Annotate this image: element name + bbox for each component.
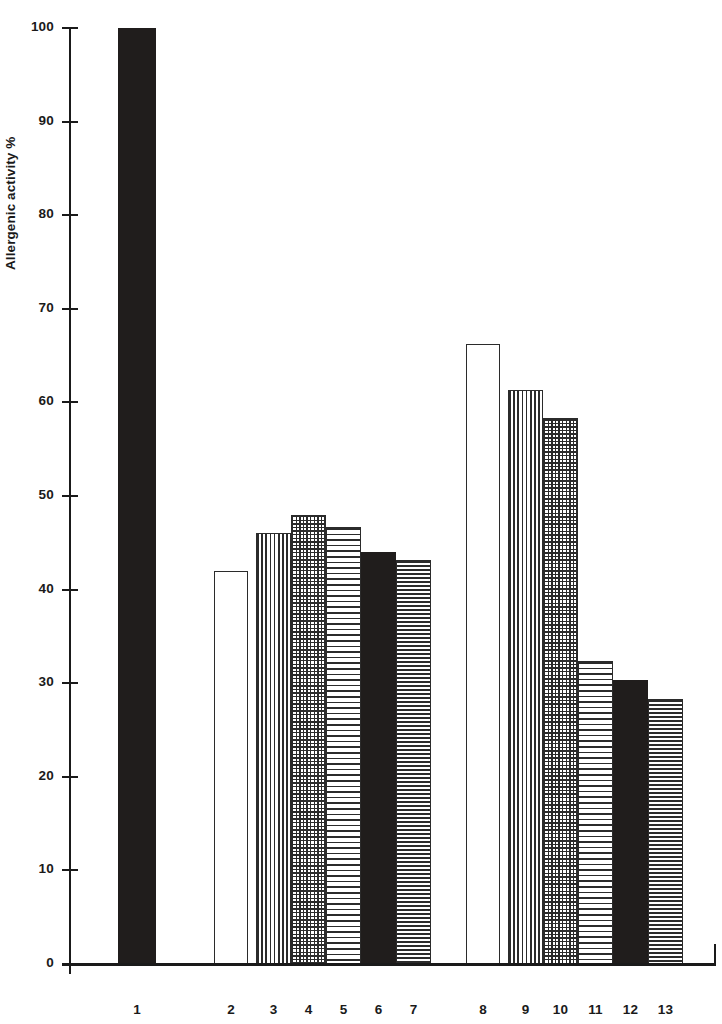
- y-axis-tick: [62, 401, 78, 403]
- bar-10: [543, 418, 578, 964]
- y-axis-tick: [62, 776, 78, 778]
- y-axis-tick-label: 90: [10, 113, 54, 128]
- x-axis-tick-label-3: 3: [254, 1002, 294, 1017]
- x-axis-tick-label-12: 12: [611, 1002, 651, 1017]
- x-axis-tick-label-9: 9: [506, 1002, 546, 1017]
- y-axis-tick-label: 0: [10, 955, 54, 970]
- x-axis-tick-label-4: 4: [289, 1002, 329, 1017]
- bar-8: [466, 344, 500, 964]
- y-axis-tick-label: 100: [10, 19, 54, 34]
- x-axis-tick-label-1: 1: [117, 1002, 157, 1017]
- bar-1: [118, 28, 156, 964]
- bar-9: [508, 390, 543, 964]
- bar-13: [648, 699, 683, 964]
- y-axis-tick-label: 30: [10, 674, 54, 689]
- y-axis-tick: [62, 121, 78, 123]
- bar-5: [326, 527, 361, 964]
- bar-2: [214, 571, 248, 964]
- y-axis-tick-label: 60: [10, 393, 54, 408]
- bar-4: [291, 515, 326, 964]
- y-axis-tick: [62, 27, 78, 29]
- bar-7: [396, 560, 431, 964]
- y-axis-tick: [62, 214, 78, 216]
- x-axis-tick-label-2: 2: [211, 1002, 251, 1017]
- bar-11: [578, 661, 613, 964]
- y-axis-line: [69, 28, 71, 966]
- x-axis-tick-label-10: 10: [541, 1002, 581, 1017]
- x-axis-end-tick: [714, 944, 716, 965]
- y-axis-tick-label: 20: [10, 768, 54, 783]
- x-axis-origin-tick: [69, 952, 71, 974]
- x-axis-tick-label-8: 8: [463, 1002, 503, 1017]
- x-axis-tick-label-7: 7: [394, 1002, 434, 1017]
- bar-chart: Allergenic activity % 010203040506070809…: [0, 0, 722, 1024]
- x-axis-tick-label-11: 11: [576, 1002, 616, 1017]
- y-axis-tick: [62, 589, 78, 591]
- y-axis-tick: [62, 495, 78, 497]
- bar-3: [256, 533, 291, 964]
- y-axis-title: Allergenic activity %: [0, 30, 22, 270]
- y-axis-tick: [62, 869, 78, 871]
- y-axis-tick-label: 40: [10, 581, 54, 596]
- y-axis-tick-label: 70: [10, 300, 54, 315]
- bar-12: [613, 680, 648, 964]
- y-axis-tick-label: 10: [10, 861, 54, 876]
- y-axis-tick-label: 80: [10, 206, 54, 221]
- x-axis-tick-label-13: 13: [646, 1002, 686, 1017]
- bar-6: [361, 552, 396, 964]
- y-axis-tick-label: 50: [10, 487, 54, 502]
- x-axis-tick-label-6: 6: [359, 1002, 399, 1017]
- x-axis-tick-label-5: 5: [324, 1002, 364, 1017]
- y-axis-tick: [62, 308, 78, 310]
- y-axis-tick: [62, 682, 78, 684]
- x-axis-line: [62, 963, 716, 966]
